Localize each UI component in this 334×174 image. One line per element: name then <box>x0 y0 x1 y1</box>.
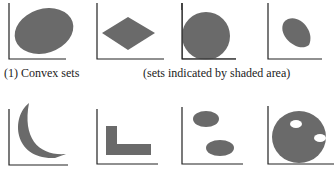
panel-convex-lens <box>268 3 322 59</box>
ellipse-upper <box>193 111 219 127</box>
panel-nonconvex-l-shape <box>97 109 158 164</box>
panel-convex-disk <box>170 3 245 70</box>
rhombus-shape <box>102 17 155 50</box>
caption-convex-sets: (1) Convex sets <box>4 66 79 81</box>
hole-right <box>314 134 326 142</box>
panel-nonconvex-disk-with-holes <box>268 106 334 164</box>
disk-shape <box>182 12 230 60</box>
l-shape <box>106 126 151 155</box>
hole-left <box>290 120 302 128</box>
panel-nonconvex-two-ellipses <box>182 107 243 164</box>
crescent-shape <box>18 103 66 158</box>
panel-convex-rhombus <box>97 3 164 59</box>
convex-sets-diagram <box>0 0 334 174</box>
ellipse-shape <box>9 1 80 61</box>
caption-shaded-note: (sets indicated by shaded area) <box>143 66 290 81</box>
axes <box>9 109 68 165</box>
lens-shape <box>282 18 310 47</box>
ellipse-lower <box>206 140 234 156</box>
panel-nonconvex-crescent <box>9 103 68 165</box>
panel-convex-ellipse <box>9 1 80 61</box>
